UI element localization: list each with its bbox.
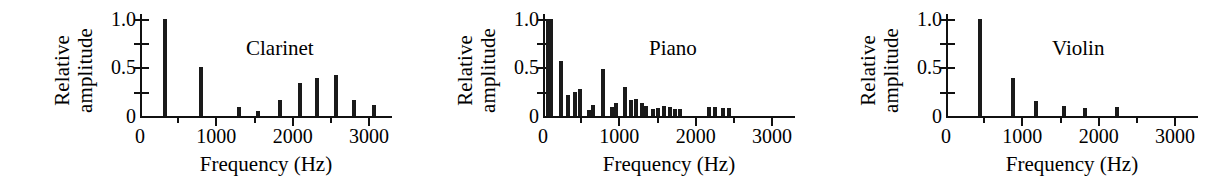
y-tick-mark [134,67,149,69]
chart-panel-clarinet: Relativeamplitude1.00.500100020003000Fre… [0,0,403,196]
y-axis-label: Relativeamplitude [0,0,96,140]
y-tick-label: 0 [126,106,136,126]
y-tick-mark [134,43,149,45]
y-tick-label: 0.5 [111,57,136,77]
harmonic-spectra-figure: Relativeamplitude1.00.500100020003000Fre… [0,0,1210,196]
bar [163,19,167,116]
x-tick-mark-minor [1136,116,1138,123]
chart-panel-violin: Relativeamplitude1.00.500100020003000Fre… [806,0,1209,196]
y-axis-label-line1: Relative [455,35,476,106]
x-tick-labels: 0100020003000 [140,126,396,154]
x-tick-mark-minor [1060,116,1062,123]
y-tick-mark [940,43,955,45]
bar [315,78,319,116]
x-tick-mark-minor [983,116,985,123]
y-tick-mark [134,19,149,21]
chart-title: Violin [1052,38,1104,59]
bar [566,95,570,116]
bar [707,107,711,116]
x-tick-label: 2000 [676,126,716,146]
bar [713,107,717,116]
y-tick-labels: 1.00.50 [902,14,942,118]
bar [651,109,655,116]
x-tick-label: 1000 [1002,126,1042,146]
x-tick-label: 1000 [196,126,236,146]
x-tick-mark-minor [733,116,735,123]
axes [946,14,1198,118]
y-tick-labels: 1.00.50 [96,14,136,118]
bar [256,111,260,116]
x-tick-mark-minor [580,116,582,123]
y-axis-label-line2: amplitude [75,28,96,113]
bar [623,87,627,116]
axes [543,14,795,118]
x-tick-labels: 0100020003000 [946,126,1202,154]
chart-title: Piano [649,38,697,59]
chart-title: Clarinet [246,38,314,59]
x-axis-label: Frequency (Hz) [543,154,795,175]
bar [372,105,376,116]
x-tick-label: 2000 [1079,126,1119,146]
bar [678,109,682,116]
bar [721,108,725,116]
plot-area: 1.00.500100020003000Frequency (Hz)Piano [499,14,799,196]
plot-area: 1.00.500100020003000Frequency (Hz)Clarin… [96,14,396,196]
bar [727,108,731,116]
bar [1034,101,1038,116]
bar [610,107,614,116]
bar [614,103,618,116]
y-axis-label-line2: amplitude [478,28,499,113]
bar [334,75,338,116]
bar [629,100,633,117]
x-tick-mark-minor [177,116,179,123]
bar [578,89,582,116]
x-tick-label: 2000 [273,126,313,146]
bar [278,100,282,116]
y-tick-label: 1.0 [514,9,539,29]
y-tick-mark [940,67,955,69]
y-tick-label: 0.5 [917,57,942,77]
bar [601,69,605,116]
bar [1083,108,1087,116]
y-axis-label-line2: amplitude [881,28,902,113]
bar [199,67,203,116]
bar [573,92,577,116]
y-axis-label-line1: Relative [858,35,879,106]
y-axis-label-line1: Relative [52,35,73,106]
bar [978,19,982,116]
x-tick-label: 3000 [1155,126,1195,146]
x-tick-mark-minor [254,116,256,123]
y-axis-label: Relativeamplitude [806,0,902,140]
x-tick-mark-minor [330,116,332,123]
axes [140,14,392,118]
x-axis-label: Frequency (Hz) [140,154,392,175]
y-tick-label: 1.0 [111,9,136,29]
x-tick-mark-minor [657,116,659,123]
x-tick-label: 3000 [752,126,792,146]
plot-area: 1.00.500100020003000Frequency (Hz)Violin [902,14,1202,196]
bar [1115,107,1119,116]
bar [591,105,595,116]
bar [1062,106,1066,116]
x-axis-label: Frequency (Hz) [946,154,1198,175]
x-tick-label: 3000 [349,126,389,146]
y-axis-label: Relativeamplitude [403,0,499,140]
y-tick-label: 0.5 [514,57,539,77]
bar [656,108,660,116]
x-tick-label: 0 [538,126,548,146]
x-tick-label: 0 [941,126,951,146]
y-axis-line [946,14,948,118]
x-tick-label: 0 [135,126,145,146]
y-tick-label: 0 [529,106,539,126]
bar [662,106,666,116]
y-tick-label: 1.0 [917,9,942,29]
y-tick-label: 0 [932,106,942,126]
bar [668,107,672,116]
bar [1011,78,1015,116]
x-tick-label: 1000 [599,126,639,146]
x-tick-labels: 0100020003000 [543,126,799,154]
bar [352,100,356,116]
bar [237,107,241,116]
y-tick-mark [940,92,955,94]
y-axis-line [140,14,142,118]
